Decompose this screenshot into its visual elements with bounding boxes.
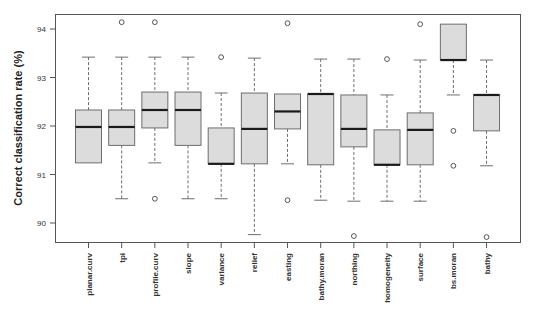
y-tick-label: 94 bbox=[37, 25, 46, 34]
iqr-box bbox=[76, 110, 102, 163]
x-tick-label: profile.curv bbox=[151, 252, 160, 296]
iqr-box bbox=[208, 128, 234, 164]
box-profile-curv bbox=[142, 20, 168, 201]
box-relief bbox=[241, 58, 267, 235]
iqr-box bbox=[374, 130, 400, 165]
box-slope bbox=[175, 57, 201, 199]
outlier-point bbox=[418, 22, 423, 27]
box-planar-curv bbox=[76, 57, 102, 163]
y-tick-label: 92 bbox=[37, 122, 46, 131]
boxes-group bbox=[76, 20, 500, 240]
y-tick-label: 93 bbox=[37, 74, 46, 83]
box-easting bbox=[275, 21, 301, 203]
box-homogeneity bbox=[374, 57, 400, 202]
outlier-point bbox=[351, 234, 356, 239]
iqr-box bbox=[407, 113, 433, 165]
x-tick-label: surface bbox=[416, 252, 425, 281]
x-tick-label: bs.moran bbox=[449, 253, 458, 289]
outlier-point bbox=[385, 57, 390, 62]
iqr-box bbox=[440, 24, 466, 60]
box-surface bbox=[407, 22, 433, 201]
outlier-point bbox=[219, 55, 224, 60]
y-axis: 9091929394 bbox=[37, 25, 55, 228]
x-tick-label: easting bbox=[284, 253, 293, 281]
box-bs-moran bbox=[440, 24, 466, 168]
box-northing bbox=[341, 59, 367, 238]
iqr-box bbox=[474, 95, 500, 131]
x-tick-label: homogeneity bbox=[383, 252, 392, 302]
y-tick-label: 90 bbox=[37, 219, 46, 228]
outlier-point bbox=[285, 198, 290, 203]
outlier-point bbox=[285, 21, 290, 26]
box-tpi bbox=[109, 20, 135, 199]
x-tick-label: tpi bbox=[118, 253, 127, 263]
outlier-point bbox=[484, 235, 489, 240]
x-tick-label: relief bbox=[250, 253, 259, 272]
y-axis-title: Correct classification rate (%) bbox=[12, 50, 24, 206]
iqr-box bbox=[341, 95, 367, 147]
y-tick-label: 91 bbox=[37, 171, 46, 180]
outlier-point bbox=[451, 128, 456, 133]
boxplot-chart: 9091929394 planar.curvtpiprofile.curvslo… bbox=[0, 0, 534, 311]
iqr-box bbox=[308, 94, 334, 165]
box-bathy-moran bbox=[308, 59, 334, 200]
x-tick-label: bathy bbox=[483, 252, 492, 274]
outlier-point bbox=[119, 20, 124, 25]
x-tick-label: slope bbox=[184, 252, 193, 273]
outlier-point bbox=[451, 163, 456, 168]
x-tick-label: bathy.moran bbox=[317, 253, 326, 301]
x-tick-label: planar.curv bbox=[85, 252, 94, 295]
box-variance bbox=[208, 55, 234, 199]
outlier-point bbox=[152, 20, 157, 25]
x-axis: planar.curvtpiprofile.curvslopevariancer… bbox=[85, 243, 492, 303]
x-tick-label: variance bbox=[217, 252, 226, 285]
x-tick-label: northing bbox=[350, 253, 359, 286]
box-bathy bbox=[474, 60, 500, 239]
iqr-box bbox=[175, 92, 201, 145]
outlier-point bbox=[152, 196, 157, 201]
